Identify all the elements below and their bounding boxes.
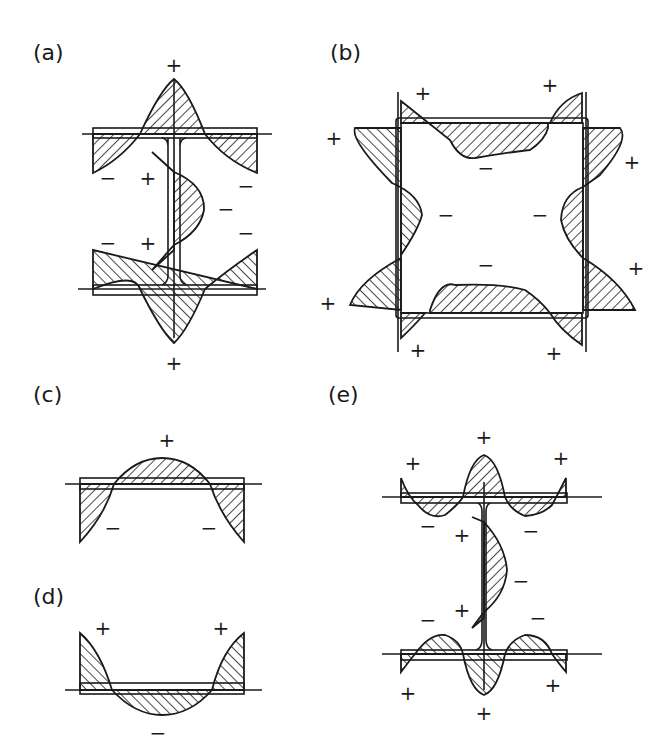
svg-text:+: + bbox=[140, 166, 157, 190]
svg-text:−: − bbox=[523, 519, 540, 543]
stress-distribution bbox=[93, 79, 257, 173]
svg-text:+: + bbox=[159, 428, 176, 452]
svg-text:+: + bbox=[628, 256, 645, 280]
svg-text:−: − bbox=[478, 156, 495, 180]
svg-text:−: − bbox=[238, 174, 255, 198]
svg-text:+: + bbox=[405, 451, 422, 475]
svg-text:−: − bbox=[532, 203, 549, 227]
stress-distribution bbox=[152, 152, 204, 270]
svg-text:−: − bbox=[478, 253, 495, 277]
panel-label-b: (b) bbox=[330, 40, 361, 65]
svg-text:+: + bbox=[476, 425, 493, 449]
stress-distribution bbox=[93, 250, 257, 343]
svg-text:+: + bbox=[545, 673, 562, 697]
stress-distribution bbox=[80, 633, 244, 715]
residual-stress-diagram: (a) + − + − − − − + + (b) bbox=[0, 0, 665, 755]
panel-label-d: (d) bbox=[33, 584, 64, 609]
svg-text:+: + bbox=[95, 616, 112, 640]
svg-text:−: − bbox=[150, 721, 167, 745]
svg-text:−: − bbox=[218, 197, 235, 221]
svg-text:+: + bbox=[546, 341, 563, 365]
svg-text:−: − bbox=[105, 516, 122, 540]
panel-label-e: (e) bbox=[328, 382, 359, 407]
svg-text:+: + bbox=[326, 126, 343, 150]
svg-text:−: − bbox=[238, 221, 255, 245]
svg-text:+: + bbox=[213, 616, 230, 640]
svg-text:+: + bbox=[166, 53, 183, 77]
svg-text:−: − bbox=[100, 231, 117, 255]
panel-label-c: (c) bbox=[33, 382, 62, 407]
svg-text:+: + bbox=[542, 73, 559, 97]
panel-d: (d) + + − bbox=[33, 584, 262, 745]
panel-b: (b) + + + + − − − − + + + + bbox=[320, 40, 645, 365]
panel-e: (e) + + + − + − − + − − + + + bbox=[328, 382, 602, 725]
svg-text:−: − bbox=[438, 203, 455, 227]
svg-text:+: + bbox=[553, 446, 570, 470]
svg-text:+: + bbox=[410, 338, 427, 362]
panel-c: (c) + − − bbox=[33, 382, 262, 542]
svg-text:+: + bbox=[476, 701, 493, 725]
svg-text:+: + bbox=[166, 351, 183, 375]
panel-a: (a) + − + − − − − + + bbox=[33, 40, 272, 375]
svg-text:+: + bbox=[320, 291, 337, 315]
svg-text:−: − bbox=[100, 166, 117, 190]
svg-text:−: − bbox=[420, 608, 437, 632]
svg-text:−: − bbox=[201, 516, 218, 540]
svg-text:+: + bbox=[400, 681, 417, 705]
svg-text:+: + bbox=[415, 81, 432, 105]
svg-text:−: − bbox=[530, 606, 547, 630]
svg-text:+: + bbox=[624, 150, 641, 174]
svg-text:−: − bbox=[513, 569, 530, 593]
panel-label-a: (a) bbox=[33, 40, 64, 65]
stress-distribution bbox=[472, 517, 507, 628]
svg-text:−: − bbox=[420, 514, 437, 538]
svg-text:+: + bbox=[454, 523, 471, 547]
svg-text:+: + bbox=[454, 598, 471, 622]
svg-text:+: + bbox=[140, 231, 157, 255]
